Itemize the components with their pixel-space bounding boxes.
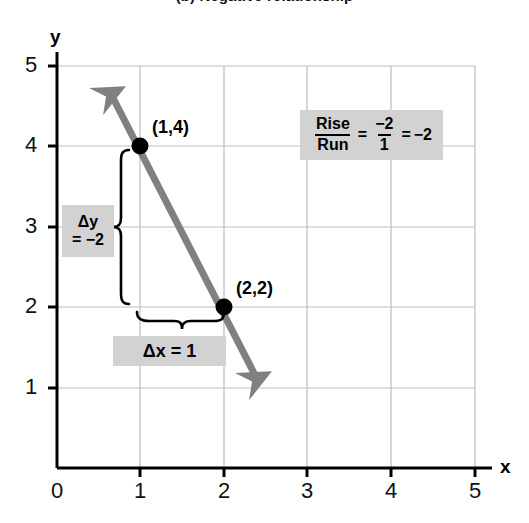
- x-tick-5: 5: [460, 478, 490, 504]
- delta-y-line-1: Δy: [78, 213, 98, 231]
- delta-y-box: Δy = −2: [62, 205, 114, 257]
- delta-x-text: Δx = 1: [143, 341, 196, 362]
- run-text: Run: [315, 134, 350, 154]
- delta-y-line-2: = −2: [72, 231, 104, 249]
- y-tick-3: 3: [16, 213, 46, 239]
- y-tick-1: 1: [16, 374, 46, 400]
- x-tick-1: 1: [125, 478, 155, 504]
- y-axis-label: y: [50, 26, 61, 48]
- numerator-text: −2: [373, 116, 395, 134]
- x-tick-4: 4: [376, 478, 406, 504]
- equals-sign-2: =: [401, 126, 410, 144]
- figure-root: (b) Negative relationship: [0, 0, 529, 523]
- y-tick-4: 4: [16, 132, 46, 158]
- slope-result: −2: [414, 126, 432, 144]
- delta-x-brace: [137, 312, 224, 329]
- graph-canvas: [0, 0, 529, 523]
- slope-formula-box: Rise Run = −2 1 = −2: [300, 110, 443, 160]
- x-tick-3: 3: [292, 478, 322, 504]
- point-label-2-2: (2,2): [236, 278, 273, 299]
- point-label-1-4: (1,4): [152, 117, 189, 138]
- equals-sign-1: =: [358, 126, 367, 144]
- y-tick-2: 2: [16, 293, 46, 319]
- y-tick-5: 5: [16, 52, 46, 78]
- x-tick-2: 2: [209, 478, 239, 504]
- x-axis-label: x: [500, 456, 511, 478]
- x-tick-0: 0: [42, 478, 72, 504]
- denominator-text: 1: [378, 134, 391, 154]
- rise-text: Rise: [314, 116, 352, 134]
- rise-over-run-fraction: Rise Run: [314, 116, 352, 154]
- delta-x-box: Δx = 1: [113, 336, 226, 366]
- data-point-1-4: [132, 138, 149, 155]
- data-point-2-2: [216, 299, 233, 316]
- value-fraction: −2 1: [373, 116, 395, 154]
